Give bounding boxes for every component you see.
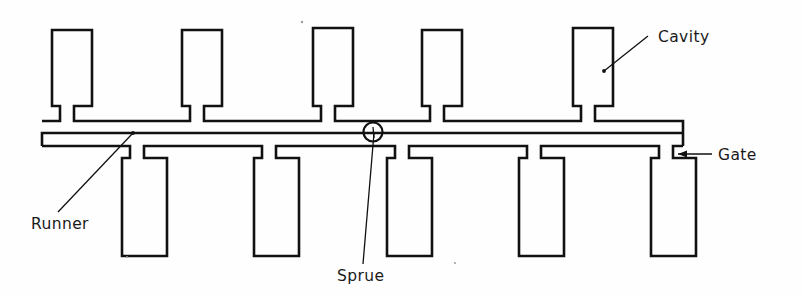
label-gate: Gate [718, 146, 757, 164]
label-sprue: Sprue [337, 267, 384, 285]
leader-line-sprue [363, 133, 374, 264]
lower-runner-and-cavities-outline [42, 146, 696, 256]
mold-diagram-canvas: Injection mould multi-cavity layout with… [0, 0, 802, 296]
leader-dot-runner [131, 131, 135, 135]
scan-specks-group [126, 21, 456, 264]
scan-speck-1 [301, 21, 303, 23]
leader-line-cavity [604, 36, 648, 71]
scan-speck-2 [126, 256, 128, 258]
scan-speck-3 [454, 262, 456, 264]
mold-layout-diagram: Injection mould multi-cavity layout with… [0, 0, 802, 296]
upper-runner-and-cavities-outline [42, 28, 683, 146]
arrow-head-gate [678, 150, 687, 157]
mold-geometry-group [42, 28, 696, 256]
label-runner: Runner [31, 215, 89, 233]
label-cavity: Cavity [658, 28, 709, 46]
leader-dot-cavity [602, 69, 606, 73]
